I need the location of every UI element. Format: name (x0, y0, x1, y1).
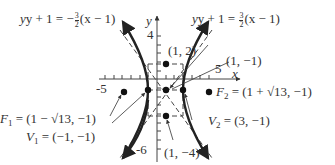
asymptote-left-equation: yy + 1 = −32(x − 1) (20, 12, 115, 29)
label-value: = (1 + √13, −1) (228, 84, 311, 99)
focus-f1 (121, 89, 127, 95)
label-top-point: (1, 2) (168, 44, 196, 57)
label-name: F (0, 111, 8, 126)
label-subscript: 2 (224, 91, 229, 101)
label-name: V (208, 113, 216, 128)
label-subscript: 2 (216, 120, 221, 130)
vertex-v2 (180, 87, 186, 93)
equation-lhs: y + 1 = (198, 11, 239, 26)
y-axis (157, 16, 161, 162)
x-axis-label: x (232, 67, 238, 80)
fraction: 32 (75, 12, 79, 29)
label-value: = (3, −1) (220, 113, 269, 128)
vertex-v1 (145, 87, 151, 93)
label-subscript: 1 (8, 118, 13, 128)
fraction-denominator: 2 (239, 21, 243, 29)
equation-sign: − (66, 11, 73, 26)
label-value: = (1 − √13, −1) (12, 111, 95, 126)
label-name: V (26, 129, 34, 144)
tick-label-x-5: 5 (215, 62, 222, 75)
label-focus-f1: F1 = (1 − √13, −1) (0, 112, 96, 125)
top-point (163, 61, 169, 67)
equation-rhs: (x − 1) (244, 11, 280, 26)
y-axis-label: y (146, 14, 152, 27)
equation-rhs: (x − 1) (80, 11, 116, 26)
label-bottom-point: (1, −4) (164, 146, 200, 159)
label-value: = (−1, −1) (38, 129, 95, 144)
label-subscript: 1 (34, 136, 39, 146)
asymptote-right-equation: yy + 1 = 32(x − 1) (192, 12, 280, 29)
tick-label-x-neg5: -5 (96, 82, 107, 95)
fraction: 32 (239, 12, 243, 29)
label-focus-f2: F2 = (1 + √13, −1) (216, 85, 312, 98)
fraction-denominator: 2 (75, 21, 79, 29)
label-name: F (216, 84, 224, 99)
tick-label-y-4: 4 (147, 28, 154, 41)
focus-f2 (206, 89, 212, 95)
tick-label-y-neg6: -6 (136, 143, 147, 156)
center-point (163, 87, 169, 93)
equation-lhs: y + 1 = (26, 11, 67, 26)
label-vertex-v1: V1 = (−1, −1) (26, 130, 95, 143)
label-center-point: (1, −1) (226, 54, 262, 67)
points (121, 61, 212, 119)
label-vertex-v2: V2 = (3, −1) (208, 114, 270, 127)
bottom-point (163, 113, 169, 119)
